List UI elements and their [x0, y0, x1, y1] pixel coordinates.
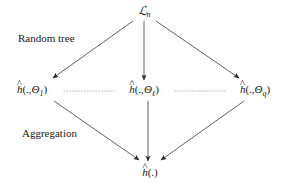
random-tree-label: Random tree [18, 33, 75, 44]
tree-node-first-close: ) [43, 83, 47, 95]
aggregate-node-args: (.) [148, 166, 158, 178]
tree-node-first-param: Θ [32, 83, 40, 95]
dataset-node: ℒn [138, 5, 151, 19]
tree-node-last-close: ) [266, 83, 270, 95]
dataset-node-subscript: n [147, 10, 151, 19]
aggregation-label: Aggregation [22, 128, 77, 139]
aggregate-node: ^h(.) [142, 167, 158, 178]
edge-dataset-to-tree-last [156, 21, 239, 78]
tree-node-ell: ^h(.,Θℓ) [129, 84, 159, 97]
tree-node-ell-args: (., [135, 83, 144, 95]
hat-group-last: ^h [240, 84, 246, 95]
tree-node-last: ^h(.,Θq) [240, 84, 270, 97]
hat-accent-icon: ^ [142, 161, 147, 171]
hat-group-ell: ^h [129, 84, 135, 95]
tree-node-last-param: Θ [255, 83, 263, 95]
tree-node-last-args: (., [245, 83, 254, 95]
hat-accent-icon: ^ [240, 79, 245, 89]
tree-node-ell-close: ) [155, 83, 159, 95]
hat-accent-icon: ^ [17, 79, 22, 89]
edge-dataset-to-tree-first [53, 21, 133, 78]
hat-group-first: ^h [17, 84, 23, 95]
edge-tree-last-to-output [161, 101, 244, 160]
tree-node-first: ^h(.,Θ1) [17, 84, 47, 97]
hat-group-output: ^h [142, 167, 148, 178]
hat-accent-icon: ^ [129, 79, 134, 89]
tree-node-first-args: (., [22, 83, 31, 95]
diagram-canvas: ℒn Random tree Aggregation ^h(.,Θ1) ^h(.… [0, 0, 288, 185]
tree-node-ell-param: Θ [144, 83, 152, 95]
dataset-node-symbol: ℒ [138, 3, 147, 18]
